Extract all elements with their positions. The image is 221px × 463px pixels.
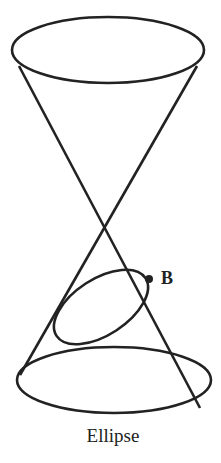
cone-line-right — [20, 66, 197, 375]
point-b — [145, 275, 153, 283]
bottom-ellipse — [17, 347, 211, 413]
caption: Ellipse — [0, 425, 221, 447]
point-b-label: B — [161, 268, 173, 289]
top-ellipse — [12, 17, 204, 83]
double-cone-diagram — [0, 0, 221, 463]
